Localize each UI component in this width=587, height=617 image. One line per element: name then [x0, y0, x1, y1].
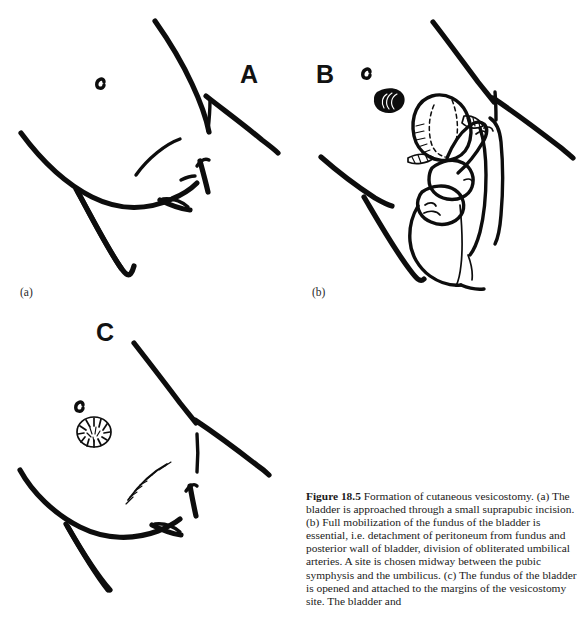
incision-dash-medial: [181, 176, 195, 180]
inguinal-fold-right: [206, 96, 278, 153]
groin-crease-right: [495, 92, 496, 120]
ring-finger-crease: [425, 203, 436, 206]
stoma-suture-9: [81, 437, 85, 442]
stoma-suture-10: [78, 433, 84, 434]
flap-left-hatch-2: [418, 155, 421, 163]
groin-crease-right: [208, 100, 210, 131]
abdominal-wall-contour: [155, 21, 209, 132]
panel-b-drawing: [300, 0, 587, 300]
stoma-stipple-3: [97, 431, 100, 436]
stoma-suture-6: [98, 439, 101, 445]
panel-b-sublabel: (b): [312, 287, 325, 299]
abdominal-wall-contour: [134, 343, 196, 423]
midline-mark: [200, 161, 208, 192]
stoma-suture-5: [102, 437, 107, 440]
abdominal-wall-contour: [433, 22, 494, 102]
midline-mark: [190, 486, 196, 516]
bladder-fundus: [413, 95, 471, 161]
panel-a-letter: A: [240, 62, 259, 87]
panel-b: B (b): [300, 0, 587, 300]
flap-left-hatch-1: [412, 157, 415, 163]
stoma-stipple-1: [90, 428, 92, 434]
umbilicus-mark: [97, 79, 104, 88]
panel-c: C: [0, 300, 300, 590]
fundus-hatch-1: [416, 124, 424, 126]
panel-b-letter: B: [316, 62, 335, 87]
inguinal-fold-left: [321, 157, 392, 206]
figure-caption-body: (a) The bladder is approached through a …: [306, 490, 577, 607]
stoma-suture-2: [99, 419, 101, 427]
stoma-suture-4: [104, 432, 110, 433]
groin-crease-right: [197, 434, 198, 472]
figure-caption: Figure 18.5 Formation of cutaneous vesic…: [306, 490, 584, 608]
panel-c-letter: C: [96, 320, 115, 345]
palm-edge: [410, 206, 461, 285]
umbilicus-mark: [76, 402, 83, 411]
fundus-hatch-2: [415, 131, 424, 133]
stoma-suture-12: [86, 420, 90, 427]
stoma-stipple-4: [87, 433, 91, 437]
figure-number: Figure 18.5: [306, 490, 361, 502]
stoma-suture-8: [87, 439, 89, 446]
bladder-dashed-outline-2: [452, 100, 457, 141]
figure-page: A (a): [0, 0, 587, 617]
panel-c-drawing: [0, 300, 300, 590]
figure-title: Formation of cutaneous vesicostomy.: [364, 490, 534, 502]
thumb-outer: [490, 118, 503, 244]
suprapubic-incision-line: [136, 139, 180, 175]
sutured-incision: [126, 462, 171, 504]
stoma-suture-3: [103, 424, 107, 430]
ring-finger-crease-2: [424, 211, 440, 215]
wrist-line: [461, 285, 484, 289]
thumb-web-crease: [468, 255, 472, 280]
fundus-hatch-3: [416, 138, 425, 140]
stoma-suture-11: [80, 426, 86, 430]
umbilicus-mark: [363, 69, 370, 78]
vesicostomy-stoma: [77, 417, 111, 447]
panel-a-sublabel: (a): [20, 287, 33, 299]
stoma-stipple-2: [95, 427, 96, 434]
panel-a-drawing: [0, 0, 300, 300]
bladder-dashed-outline: [429, 105, 445, 157]
panel-a: A (a): [0, 0, 300, 300]
inguinal-fold-right: [493, 98, 573, 158]
inguinal-fold-right: [195, 420, 269, 475]
